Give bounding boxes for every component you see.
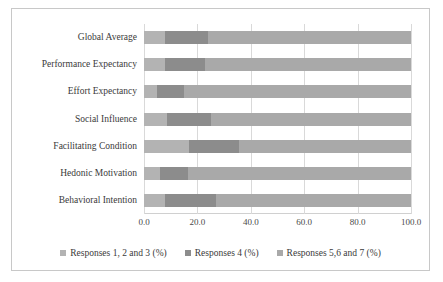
category-label: Global Average (78, 31, 144, 44)
bar-segment[interactable] (144, 85, 157, 98)
bar-row: Effort Expectancy (144, 85, 411, 98)
bar-row: Hedonic Motivation (144, 167, 411, 180)
chart-legend: Responses 1, 2 and 3 (%)Responses 4 (%)R… (12, 248, 429, 258)
category-label: Behavioral Intention (59, 194, 144, 207)
legend-swatch-icon (277, 250, 283, 256)
stacked-bar[interactable] (144, 194, 411, 207)
bar-segment[interactable] (216, 194, 411, 207)
bar-segment[interactable] (144, 113, 167, 126)
x-axis-line (144, 213, 411, 214)
x-tick-label: 100.0 (401, 217, 421, 227)
x-tick-label: 40.0 (243, 217, 259, 227)
bar-segment[interactable] (189, 140, 238, 153)
bar-segment[interactable] (239, 140, 411, 153)
stacked-bar[interactable] (144, 31, 411, 44)
bar-segment[interactable] (144, 58, 165, 71)
bar-segment[interactable] (165, 31, 208, 44)
bar-segment[interactable] (165, 58, 205, 71)
legend-swatch-icon (60, 250, 66, 256)
x-tick-label: 60.0 (296, 217, 312, 227)
bar-segment[interactable] (211, 113, 411, 126)
stacked-bar[interactable] (144, 167, 411, 180)
bar-row: Global Average (144, 31, 411, 44)
bar-segment[interactable] (144, 167, 160, 180)
bar-segment[interactable] (205, 58, 411, 71)
bar-segment[interactable] (160, 167, 188, 180)
gridline (411, 24, 412, 214)
plot-area: Global AveragePerformance ExpectancyEffo… (144, 24, 411, 214)
x-tick-label: 80.0 (350, 217, 366, 227)
bar-row: Social Influence (144, 113, 411, 126)
category-label: Hedonic Motivation (60, 167, 144, 180)
x-tick-label: 20.0 (190, 217, 206, 227)
stacked-bar[interactable] (144, 85, 411, 98)
chart-frame: Global AveragePerformance ExpectancyEffo… (11, 8, 430, 271)
legend-swatch-icon (185, 250, 191, 256)
legend-item[interactable]: Responses 5,6 and 7 (%) (277, 248, 381, 258)
bar-segment[interactable] (167, 113, 211, 126)
x-tick-label: 0.0 (138, 217, 149, 227)
stacked-bar[interactable] (144, 58, 411, 71)
bar-segment[interactable] (144, 140, 189, 153)
bar-segment[interactable] (144, 31, 165, 44)
bar-segment[interactable] (184, 85, 411, 98)
legend-item[interactable]: Responses 4 (%) (185, 248, 259, 258)
bar-segment[interactable] (208, 31, 411, 44)
category-label: Social Influence (75, 113, 144, 126)
legend-label: Responses 5,6 and 7 (%) (287, 248, 381, 258)
category-label: Performance Expectancy (42, 58, 144, 71)
stacked-bar[interactable] (144, 140, 411, 153)
stacked-bar[interactable] (144, 113, 411, 126)
legend-label: Responses 1, 2 and 3 (%) (70, 248, 167, 258)
bar-row: Performance Expectancy (144, 58, 411, 71)
legend-label: Responses 4 (%) (195, 248, 259, 258)
category-label: Effort Expectancy (68, 85, 144, 98)
bar-segment[interactable] (157, 85, 184, 98)
bar-segment[interactable] (188, 167, 411, 180)
bar-row: Facilitating Condition (144, 140, 411, 153)
category-label: Facilitating Condition (53, 140, 144, 153)
bar-row: Behavioral Intention (144, 194, 411, 207)
bar-segment[interactable] (144, 194, 165, 207)
bar-segment[interactable] (165, 194, 216, 207)
legend-item[interactable]: Responses 1, 2 and 3 (%) (60, 248, 167, 258)
